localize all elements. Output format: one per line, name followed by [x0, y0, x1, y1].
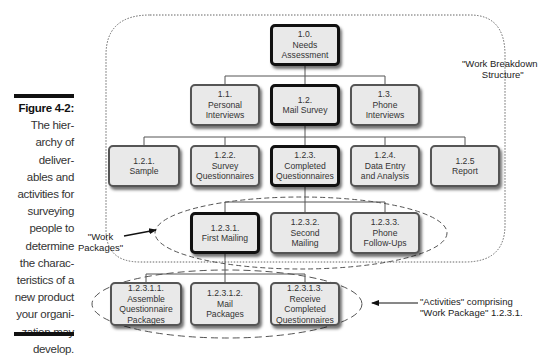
- node-number: 1.2.: [298, 95, 312, 106]
- work-packages-arrow: [124, 230, 156, 236]
- node-number: 1.2.3.3.: [371, 217, 400, 228]
- wbs-node-1-2-1: 1.2.1. Sample: [108, 145, 180, 187]
- node-label: Survey: [212, 161, 239, 172]
- node-label: Phone: [373, 228, 398, 239]
- node-label: Completed: [284, 161, 326, 172]
- node-number: 1.2.2.: [214, 150, 236, 161]
- node-label: Questionnaires: [276, 171, 334, 182]
- wbs-node-1-0: 1.0. Needs Assessment: [270, 24, 340, 66]
- node-label: Receive: [289, 294, 320, 305]
- node-label: Follow-Ups: [364, 238, 407, 249]
- node-number: 1.2.3.: [294, 150, 316, 161]
- node-label: Completed: [284, 304, 326, 315]
- node-number: 1.2.3.1.1.: [128, 283, 164, 294]
- node-number: 1.2.5: [455, 156, 474, 167]
- node-label: Sample: [129, 166, 158, 177]
- node-label: First Mailing: [202, 233, 248, 244]
- node-label: Second: [290, 228, 319, 239]
- wbs-node-1-1: 1.1. Personal Interviews: [190, 84, 260, 126]
- node-label: Questionnaires: [196, 171, 254, 182]
- node-label: Assessment: [282, 50, 329, 61]
- node-label: Mailing: [291, 238, 318, 249]
- wbs-annotation-line: Structure": [462, 69, 538, 80]
- wbs-node-1-2-3-1-3: 1.2.3.1.3. Receive Completed Questionnai…: [270, 282, 340, 326]
- node-number: 1.1.: [218, 89, 232, 100]
- node-number: 1.2.3.1.: [211, 223, 240, 234]
- node-label: Questionnaire: [119, 304, 173, 315]
- node-label: Personal: [208, 100, 242, 111]
- node-label: Questionnaires: [276, 315, 334, 326]
- node-label: Mail: [217, 299, 233, 310]
- node-label: Assemble: [127, 294, 165, 305]
- wbs-annotation-line: "Work Breakdown: [462, 58, 538, 69]
- node-number: 1.0.: [298, 29, 312, 40]
- node-label: Packages: [127, 315, 165, 326]
- node-label: Phone: [373, 100, 398, 111]
- node-label: Report: [452, 166, 478, 177]
- node-label: Interviews: [206, 110, 245, 121]
- node-number: 1.2.3.1.2.: [207, 288, 243, 299]
- work-packages-annotation: "Work Packages": [78, 231, 123, 253]
- node-label: Mail Survey: [283, 105, 328, 116]
- node-label: Data Entry: [365, 161, 406, 172]
- activities-annotation-line: "Activities" comprising: [420, 296, 523, 307]
- wbs-node-1-3: 1.3. Phone Interviews: [350, 84, 420, 126]
- work-packages-annotation-line: "Work: [78, 231, 123, 242]
- node-number: 1.3.: [378, 89, 392, 100]
- activities-annotation: "Activities" comprising "Work Package" 1…: [420, 296, 523, 318]
- wbs-node-1-2-3-3: 1.2.3.3. Phone Follow-Ups: [350, 212, 420, 254]
- wbs-annotation: "Work Breakdown Structure": [462, 58, 538, 80]
- node-number: 1.2.4.: [374, 150, 396, 161]
- node-number: 1.2.3.1.3.: [287, 283, 323, 294]
- wbs-node-1-2-3-2: 1.2.3.2. Second Mailing: [270, 212, 340, 254]
- node-label: Needs: [293, 40, 318, 51]
- node-number: 1.2.1.: [133, 156, 155, 167]
- wbs-node-1-2-3-1-1: 1.2.3.1.1. Assemble Questionnaire Packag…: [110, 282, 182, 326]
- wbs-node-1-2-4: 1.2.4. Data Entry and Analysis: [350, 145, 420, 187]
- wbs-node-1-2-3-1-2: 1.2.3.1.2. Mail Packages: [190, 282, 260, 326]
- wbs-node-1-2-2: 1.2.2. Survey Questionnaires: [190, 145, 260, 187]
- node-label: Interviews: [366, 110, 405, 121]
- wbs-node-1-2-5: 1.2.5 Report: [430, 145, 500, 187]
- node-number: 1.2.3.2.: [291, 217, 320, 228]
- wbs-node-1-2-3: 1.2.3. Completed Questionnaires: [270, 145, 340, 187]
- activities-annotation-line: "Work Package" 1.2.3.1.: [420, 307, 523, 318]
- wbs-node-1-2-3-1: 1.2.3.1. First Mailing: [190, 212, 260, 254]
- node-label: Packages: [206, 309, 244, 320]
- wbs-node-1-2: 1.2. Mail Survey: [270, 84, 340, 126]
- node-label: and Analysis: [361, 171, 409, 182]
- work-packages-annotation-line: Packages": [78, 242, 123, 253]
